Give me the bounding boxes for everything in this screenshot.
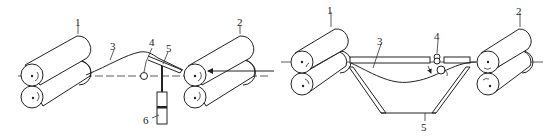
roller-pair-2 (184, 36, 255, 108)
label-4: 4 (434, 30, 440, 42)
looper-pit-5 (349, 57, 470, 113)
roller-pair-2 (477, 29, 533, 95)
label-3: 3 (377, 35, 383, 47)
label-5: 5 (166, 42, 172, 54)
pivot-stem (144, 62, 146, 72)
label-3: 3 (110, 40, 116, 52)
label-6: 6 (143, 114, 149, 126)
roller-pair-1 (291, 29, 351, 95)
diagram-canvas: 1 2 3 4 5 6 (0, 0, 553, 138)
left-figure: 1 2 3 4 5 6 (18, 16, 274, 126)
pivot-4 (141, 73, 148, 80)
label-1: 1 (327, 4, 333, 16)
roller-pair-1 (21, 36, 91, 108)
label-4: 4 (149, 36, 155, 48)
label-2: 2 (516, 5, 522, 17)
right-figure: 1 2 3 4 5 (281, 4, 543, 133)
label-5: 5 (421, 121, 427, 133)
label-1: 1 (75, 16, 81, 28)
leader-3 (373, 44, 381, 68)
strip-3 (86, 52, 183, 75)
label-2: 2 (237, 16, 243, 28)
